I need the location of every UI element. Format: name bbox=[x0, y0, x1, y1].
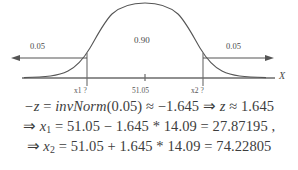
right-tail-arrowhead bbox=[265, 55, 274, 61]
equation-line-3: ⇒ x2 = 51.05 + 1.645 * 14.09 = 74.22805 bbox=[0, 138, 298, 155]
equation-1-z-value: ≈ 1.645 bbox=[226, 98, 275, 114]
equation-1-function-name: invNorm bbox=[55, 98, 106, 114]
tick-label-mean: 51.05 bbox=[132, 87, 149, 95]
equation-1-argument: (0.05) bbox=[107, 98, 143, 114]
equation-1-equals: = bbox=[39, 98, 55, 114]
equation-3-implies: ⇒ bbox=[27, 138, 44, 154]
normal-distribution-figure: 0.05 0.90 0.05 X x1 ? 51.05 x2 ? bbox=[0, 0, 298, 98]
left-tail-area-label: 0.05 bbox=[30, 42, 45, 51]
equation-2-expression: = 51.05 − 1.645 * 14.09 = 27.87195 , bbox=[51, 118, 275, 134]
equation-block: −z = invNorm(0.05) ≈ −1.645 ⇒ z ≈ 1.645 … bbox=[0, 96, 298, 170]
tick-label-x2: x2 ? bbox=[191, 87, 204, 95]
equation-line-2: ⇒ x1 = 51.05 − 1.645 * 14.09 = 27.87195 … bbox=[0, 118, 298, 135]
x-axis-label: X bbox=[279, 71, 285, 81]
equation-3-expression: = 51.05 + 1.645 * 14.09 = 74.22805 bbox=[55, 138, 272, 154]
equation-1-minus-z: −z bbox=[24, 98, 40, 114]
right-tail-area-label: 0.05 bbox=[226, 42, 241, 51]
equation-2-implies: ⇒ bbox=[23, 118, 40, 134]
equation-line-1: −z = invNorm(0.05) ≈ −1.645 ⇒ z ≈ 1.645 bbox=[0, 98, 298, 115]
tick-label-x1: x1 ? bbox=[74, 87, 87, 95]
left-tail-arrowhead bbox=[11, 55, 20, 61]
equation-1-approx-implies: ≈ −1.645 ⇒ bbox=[142, 98, 219, 114]
center-area-label: 0.90 bbox=[134, 36, 150, 45]
